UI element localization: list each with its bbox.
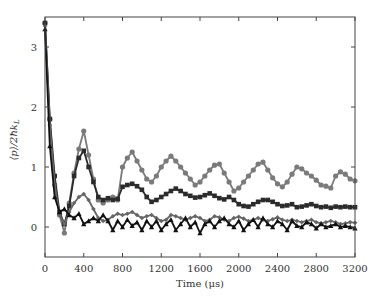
- data-point-square: [319, 205, 324, 210]
- data-point-square: [309, 202, 314, 207]
- data-point-triangle: [134, 219, 139, 224]
- data-point-square: [135, 184, 140, 189]
- chart: 0400800120016002000240028003200 0123 Tim…: [0, 0, 384, 303]
- data-point-circle: [285, 179, 290, 184]
- x-tick-label: 1600: [187, 263, 212, 274]
- data-point-square: [232, 198, 237, 203]
- data-point-square: [343, 204, 348, 209]
- data-point-diamond: [120, 213, 125, 218]
- data-point-square: [91, 180, 96, 185]
- data-point-square: [236, 202, 241, 207]
- data-point-square: [193, 195, 198, 200]
- data-point-circle: [86, 152, 91, 157]
- data-point-triangle: [183, 215, 188, 220]
- data-point-circle: [318, 182, 323, 187]
- data-point-circle: [159, 164, 164, 169]
- data-point-square: [295, 205, 300, 210]
- data-point-square: [256, 200, 261, 205]
- data-point-circle: [280, 184, 285, 189]
- data-point-circle: [120, 164, 125, 169]
- x-tick-label: 0: [42, 263, 48, 274]
- series-black-squares: [43, 21, 358, 227]
- data-point-circle: [289, 172, 294, 177]
- data-point-square: [222, 197, 227, 202]
- data-point-square: [106, 196, 111, 201]
- data-point-square: [304, 203, 309, 208]
- data-point-square: [125, 183, 130, 188]
- data-point-diamond: [193, 214, 198, 219]
- data-point-diamond: [125, 212, 130, 217]
- data-point-square: [149, 200, 154, 205]
- data-point-square: [314, 204, 319, 209]
- data-point-circle: [338, 169, 343, 174]
- data-point-square: [120, 185, 125, 190]
- data-point-circle: [294, 164, 299, 169]
- data-point-square: [169, 189, 174, 194]
- data-point-circle: [328, 185, 333, 190]
- data-point-circle: [241, 179, 246, 184]
- data-point-square: [207, 191, 212, 196]
- data-point-diamond: [256, 216, 261, 221]
- data-point-square: [251, 202, 256, 207]
- data-point-triangle: [91, 215, 96, 220]
- data-point-circle: [256, 161, 261, 166]
- data-point-circle: [323, 184, 328, 189]
- data-point-diamond: [299, 220, 304, 225]
- x-tick-label: 800: [113, 263, 132, 274]
- data-point-diamond: [324, 220, 329, 225]
- data-point-triangle: [236, 218, 241, 223]
- data-point-circle: [226, 179, 231, 184]
- x-tick-label: 2000: [226, 263, 251, 274]
- data-point-square: [86, 165, 91, 170]
- data-point-square: [144, 195, 149, 200]
- data-point-circle: [76, 146, 81, 151]
- data-point-circle: [163, 158, 168, 163]
- data-point-square: [154, 198, 159, 203]
- data-point-circle: [188, 176, 193, 181]
- data-point-circle: [212, 163, 217, 168]
- data-point-diamond: [295, 219, 300, 224]
- data-point-circle: [299, 166, 304, 171]
- data-point-circle: [134, 158, 139, 163]
- data-point-square: [333, 204, 338, 209]
- y-axis-title: ⟨p⟩/2ħkL: [8, 119, 21, 160]
- x-tick-label: 2400: [265, 263, 290, 274]
- y-tick-label: 3: [31, 42, 37, 53]
- data-point-diamond: [178, 216, 183, 221]
- data-point-diamond: [188, 216, 193, 221]
- data-point-circle: [125, 155, 130, 160]
- data-point-square: [115, 197, 120, 202]
- svg-text:⟨p⟩/2ħkL: ⟨p⟩/2ħkL: [8, 119, 21, 160]
- data-point-circle: [251, 167, 256, 172]
- data-point-triangle: [76, 211, 81, 216]
- data-point-square: [188, 194, 193, 199]
- data-point-square: [96, 195, 101, 200]
- series-layer: [42, 20, 357, 235]
- data-point-triangle: [193, 219, 198, 224]
- data-point-square: [324, 204, 329, 209]
- data-point-diamond: [348, 220, 353, 225]
- data-point-triangle: [125, 217, 130, 222]
- data-point-circle: [149, 179, 154, 184]
- data-point-square: [246, 204, 251, 209]
- data-point-square: [164, 192, 169, 197]
- series-line: [45, 26, 355, 224]
- data-point-circle: [343, 172, 348, 177]
- series-line: [45, 29, 355, 233]
- data-point-square: [203, 193, 208, 198]
- data-point-circle: [314, 178, 319, 183]
- data-point-circle: [183, 170, 188, 175]
- data-point-circle: [178, 164, 183, 169]
- data-point-square: [299, 204, 304, 209]
- data-point-square: [241, 204, 246, 209]
- data-point-circle: [144, 176, 149, 181]
- data-point-square: [338, 205, 343, 210]
- data-point-circle: [222, 170, 227, 175]
- data-point-square: [261, 198, 266, 203]
- data-point-circle: [139, 167, 144, 172]
- data-point-diamond: [328, 219, 333, 224]
- data-point-diamond: [144, 214, 149, 219]
- data-point-circle: [275, 181, 280, 186]
- data-point-triangle: [222, 215, 227, 220]
- data-point-circle: [173, 158, 178, 163]
